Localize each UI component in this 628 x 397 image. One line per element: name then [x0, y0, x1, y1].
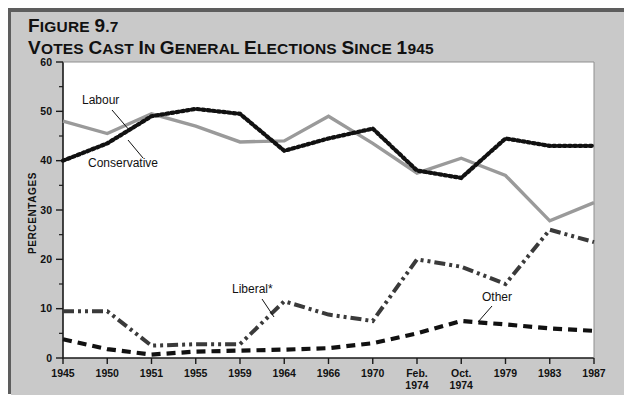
chart-plot-area: 0102030405060PERCENTAGES1945195019511955…: [0, 0, 628, 397]
x-axis-tick-label: 1959: [228, 367, 252, 379]
y-axis-tick-label: 30: [40, 204, 52, 216]
y-axis-tick-label: 60: [40, 56, 52, 68]
x-axis-tick-label: 1955: [184, 367, 208, 379]
x-axis-tick-label: 1983: [538, 367, 562, 379]
x-axis-tick-label: 1966: [317, 367, 341, 379]
x-axis-tick-label: 1979: [494, 367, 518, 379]
series-label-liberal: Liberal*: [232, 282, 273, 296]
x-axis-tick-label: 1951: [140, 367, 164, 379]
x-axis-tick-label: Oct.: [451, 367, 472, 379]
y-axis-title: PERCENTAGES: [27, 172, 38, 254]
y-axis-tick-label: 0: [46, 352, 52, 364]
series-label-conservative: Conservative: [88, 156, 158, 170]
x-axis-tick-label-line2: 1974: [450, 379, 474, 391]
y-axis-tick-label: 20: [40, 253, 52, 265]
x-axis-tick-label: 1964: [273, 367, 297, 379]
figure-root: FIGURE 9.7 VOTES CAST IN GENERAL ELECTIO…: [0, 0, 628, 397]
series-label-other: Other: [482, 290, 512, 304]
x-axis-tick-label: 1970: [361, 367, 385, 379]
x-axis-tick-label: Feb.: [406, 367, 428, 379]
x-axis-tick-label-line2: 1974: [405, 379, 429, 391]
y-axis-tick-label: 10: [40, 302, 52, 314]
line-chart: 0102030405060PERCENTAGES1945195019511955…: [0, 0, 628, 397]
y-axis-tick-label: 40: [40, 154, 52, 166]
y-axis-tick-label: 50: [40, 105, 52, 117]
series-label-labour: Labour: [82, 93, 119, 107]
x-axis-tick-label: 1950: [96, 367, 120, 379]
x-axis-tick-label: 1945: [51, 367, 75, 379]
x-axis-tick-label: 1987: [582, 367, 606, 379]
